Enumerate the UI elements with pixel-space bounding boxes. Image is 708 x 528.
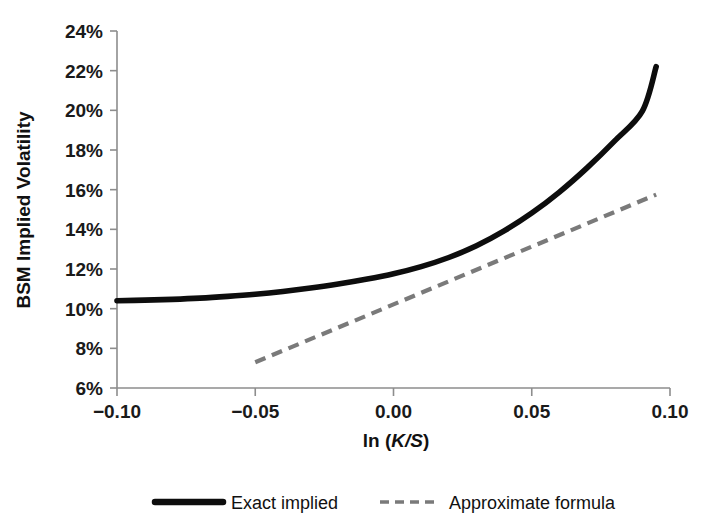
x-tick-label-2: 0.00 [375,401,412,422]
y-axis-title: BSM Implied Volatility [13,111,34,308]
x-axis-title-suffix: ) [423,430,429,451]
y-tick-label-8: 22% [65,61,103,82]
x-axis-title-italic: K/S [391,430,423,451]
y-tick-label-6: 18% [65,140,103,161]
x-axis-title-prefix: ln ( [363,430,392,451]
legend-label-0: Exact implied [231,493,338,513]
y-tick-label-3: 12% [65,259,103,280]
x-axis-title-label: ln (K/S) [363,430,430,451]
y-tick-label-0: 6% [76,378,104,399]
x-axis-title: ln (K/S) [363,430,430,451]
x-tick-label-3: 0.05 [513,401,550,422]
y-axis-title-label: BSM Implied Volatility [13,111,34,308]
x-tick-label-0: −0.10 [93,401,141,422]
chart-background [0,0,708,528]
legend-label-1: Approximate formula [449,493,616,513]
x-tick-label-4: 0.10 [652,401,689,422]
y-tick-label-4: 14% [65,219,103,240]
y-tick-label-1: 8% [76,338,104,359]
chart-container: 6%8%10%12%14%16%18%20%22%24% −0.10−0.050… [0,0,708,528]
x-tick-label-1: −0.05 [231,401,280,422]
y-tick-label-7: 20% [65,100,103,121]
y-tick-label-5: 16% [65,180,103,201]
y-tick-label-2: 10% [65,299,103,320]
implied-volatility-chart: 6%8%10%12%14%16%18%20%22%24% −0.10−0.050… [0,0,708,528]
y-tick-label-9: 24% [65,21,103,42]
